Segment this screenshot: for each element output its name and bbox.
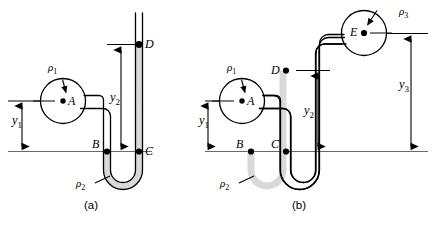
label-dimension-a-y1: y1 [12, 114, 22, 130]
point-dots-b [212, 30, 392, 155]
label-point-b-D: D [271, 64, 280, 76]
label-point-b-A: A [247, 95, 254, 107]
label-point-a-D: D [145, 38, 154, 50]
label-point-a-A: A [68, 95, 75, 107]
figure-drawing [0, 0, 433, 227]
caption-panel-b: (b) [292, 200, 306, 212]
tube-b-final [243, 38, 346, 190]
label-dimension-b-y1: y1 [199, 114, 209, 130]
label-rho3-b: ρ3 [399, 6, 408, 20]
tube-outline-b [0, 0, 387, 189]
label-rho1-b: ρ1 [227, 62, 236, 76]
label-point-a-C: C [145, 145, 153, 157]
label-rho2-b: ρ2 [220, 178, 229, 192]
label-dimension-b-y2: y2 [304, 104, 314, 120]
caption-panel-a: (a) [84, 200, 98, 212]
fluid-fill-a [104, 45, 143, 190]
label-rho2-a: ρ2 [76, 178, 85, 192]
label-point-a-B: B [92, 138, 99, 150]
label-point-b-B: B [236, 138, 243, 150]
label-point-b-C: C [271, 138, 279, 150]
manometer-figure: ρ1 A B C D y1 y2 ρ2 (a) ρ1 A B C D E ρ3 … [0, 0, 433, 227]
tube-outline-a [41, 13, 143, 190]
rho1-leader-a [63, 80, 67, 93]
point-dots-a [33, 41, 142, 154]
label-rho1-a: ρ1 [48, 62, 57, 76]
label-point-b-E: E [350, 26, 357, 38]
label-dimension-b-y3: y3 [399, 78, 409, 94]
label-dimension-a-y2: y2 [110, 91, 120, 107]
rho1-leader-b [242, 80, 246, 93]
